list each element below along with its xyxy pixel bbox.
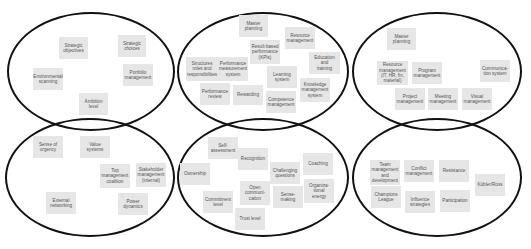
card-strategy: Environmental scanning — [33, 68, 63, 90]
card-program-management: Project management — [395, 88, 425, 110]
card-culture-power: Stakeholder management (internal) — [136, 163, 166, 187]
card-structure-systems: Performance review — [200, 83, 230, 105]
card-strategy: Ambition level — [79, 93, 108, 115]
card-people-change: Kübler/Ross — [475, 174, 505, 196]
card-people-change: Resistance — [439, 160, 469, 182]
card-behaviour: Self- assessment — [208, 137, 238, 159]
card-people-change: Team management and development — [370, 160, 400, 185]
card-structure-systems: Competence management — [266, 91, 296, 113]
card-behaviour: Open communi- cation — [240, 181, 270, 205]
card-people-change: Participation — [440, 190, 470, 212]
card-program-management: Resource management (IT, HR, fin, materi… — [377, 61, 408, 85]
card-structure-systems: Knowledge management system — [300, 78, 330, 102]
card-structure-systems: Master planning — [239, 15, 268, 37]
card-program-management: Meeting management — [428, 88, 458, 110]
card-structure-systems: Education and training — [309, 52, 340, 74]
card-program-management: Visual management — [462, 88, 492, 110]
card-culture-power: Power dynamics — [118, 193, 148, 215]
card-behaviour: Commitment level — [203, 191, 233, 213]
card-behaviour: Challenging questions — [270, 162, 300, 184]
card-culture-power: External networking — [46, 192, 76, 214]
card-behaviour: Organiza- tional energy — [304, 179, 334, 203]
card-structure-systems: Structures roles and responsibilities — [186, 57, 218, 81]
card-strategy: Strategic choices — [118, 35, 146, 57]
card-structure-systems: Resource management — [285, 27, 315, 49]
card-strategy: Strategic objectives — [59, 37, 88, 59]
card-program-management: Communica- tion system — [480, 60, 510, 82]
card-people-change: Champions League — [371, 186, 401, 208]
card-people-change: Conflict management — [404, 160, 434, 182]
card-structure-systems: Result-based performance (KPIs) — [250, 40, 280, 64]
card-culture-power: Sense of urgency — [33, 136, 63, 158]
card-culture-power: Top management coalition — [100, 164, 130, 188]
card-behaviour: Trust level — [235, 208, 265, 230]
card-structure-systems: Rewarding — [233, 85, 263, 105]
card-culture-power: Value systems — [80, 136, 110, 158]
card-behaviour: Sense-making — [273, 186, 303, 208]
card-people-change: Influence strategies — [405, 191, 435, 213]
card-behaviour: Coaching — [303, 153, 333, 175]
card-behaviour: Recognition — [238, 148, 268, 170]
card-behaviour: Ownership — [180, 163, 210, 185]
card-structure-systems: Performance measurement system — [218, 57, 248, 81]
card-structure-systems: Learning system — [267, 66, 297, 88]
card-program-management: Master planning — [387, 28, 416, 50]
card-program-management: Program management — [412, 62, 442, 84]
card-strategy: Portfolio management — [123, 64, 153, 86]
